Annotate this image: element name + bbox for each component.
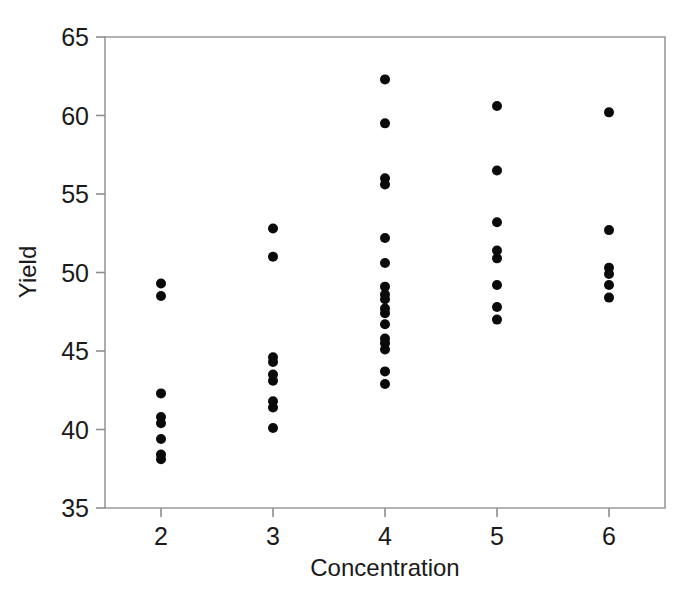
y-tick-label: 35: [61, 494, 89, 522]
data-point: [268, 357, 278, 367]
data-point: [380, 379, 390, 389]
data-point: [492, 302, 502, 312]
y-tick-label: 65: [61, 23, 89, 51]
data-point: [492, 165, 502, 175]
data-point: [156, 278, 166, 288]
data-point: [380, 233, 390, 243]
x-tick-label: 2: [154, 522, 168, 550]
data-point: [492, 101, 502, 111]
data-point: [492, 217, 502, 227]
data-point: [604, 269, 614, 279]
data-point: [268, 423, 278, 433]
data-point: [604, 225, 614, 235]
data-point: [380, 294, 390, 304]
data-point: [268, 376, 278, 386]
data-point: [268, 403, 278, 413]
data-point: [380, 308, 390, 318]
data-point: [380, 319, 390, 329]
scatter-plot-figure: 35404550556065 23456 Yield Concentration: [0, 0, 694, 612]
y-tick-label: 55: [61, 180, 89, 208]
figure-background: [0, 0, 694, 612]
data-point: [604, 293, 614, 303]
data-point: [380, 258, 390, 268]
data-point: [604, 107, 614, 117]
data-point: [156, 418, 166, 428]
data-point: [380, 118, 390, 128]
data-point: [156, 434, 166, 444]
plot-canvas: 35404550556065 23456 Yield Concentration: [0, 0, 694, 612]
x-axis-title: Concentration: [310, 554, 459, 581]
data-point: [492, 280, 502, 290]
y-tick-label: 50: [61, 259, 89, 287]
y-tick-label: 60: [61, 102, 89, 130]
y-tick-label: 45: [61, 337, 89, 365]
data-point: [268, 252, 278, 262]
data-point: [380, 366, 390, 376]
data-point: [492, 315, 502, 325]
data-point: [156, 291, 166, 301]
data-point: [156, 388, 166, 398]
data-point: [604, 280, 614, 290]
data-point: [268, 224, 278, 234]
data-point: [380, 344, 390, 354]
x-tick-label: 4: [378, 522, 392, 550]
data-point: [492, 253, 502, 263]
x-tick-label: 3: [266, 522, 280, 550]
y-axis-title: Yield: [14, 246, 41, 298]
x-tick-label: 5: [490, 522, 504, 550]
y-tick-label: 40: [61, 416, 89, 444]
data-point: [156, 454, 166, 464]
data-point: [380, 74, 390, 84]
x-tick-label: 6: [602, 522, 616, 550]
data-point: [380, 180, 390, 190]
